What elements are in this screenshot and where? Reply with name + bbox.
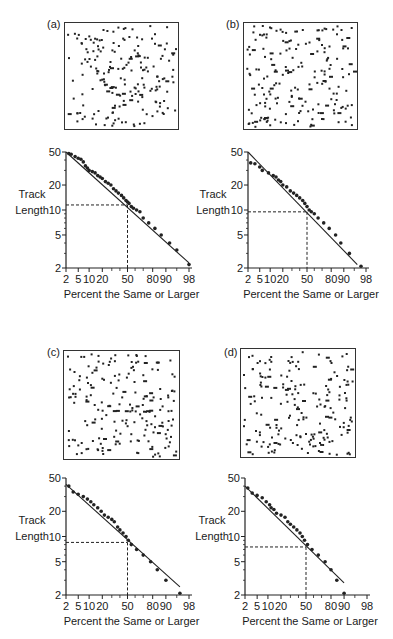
data-point — [342, 591, 346, 595]
chart-c: 2510205025102050809098TrackLengthPercent… — [15, 472, 200, 627]
y-tick-label: 2 — [234, 589, 240, 601]
data-point — [255, 494, 259, 498]
data-point — [317, 553, 321, 557]
x-tick-label: 20 — [277, 273, 289, 285]
data-point — [127, 202, 131, 206]
x-tick-label: 2 — [63, 273, 69, 285]
data-point — [92, 503, 96, 507]
data-point — [73, 155, 77, 159]
data-point — [141, 553, 145, 557]
data-point — [305, 205, 309, 209]
x-tick-label: 98 — [361, 600, 373, 612]
data-point — [76, 492, 80, 496]
y-tick-label: 10 — [49, 531, 61, 543]
track-length-charts: 2510205025102050809098TrackLengthPercent… — [0, 0, 393, 639]
x-tick-label: 50 — [301, 273, 313, 285]
x-tick-label: 10 — [262, 600, 274, 612]
data-point — [272, 508, 276, 512]
y-tick-label: 5 — [237, 229, 243, 241]
x-tick-label: 50 — [121, 273, 133, 285]
x-tick-label: 80 — [325, 273, 337, 285]
data-point — [264, 500, 268, 504]
data-point — [286, 520, 290, 524]
data-point — [253, 162, 257, 166]
data-point — [164, 579, 168, 583]
x-tick-label: 98 — [183, 600, 195, 612]
data-point — [316, 216, 320, 220]
chart-a: 2510205025102050809098TrackLengthPercent… — [15, 146, 200, 300]
x-tick-label: 90 — [160, 600, 172, 612]
data-point — [187, 263, 191, 267]
x-tick-label: 5 — [254, 600, 260, 612]
data-point — [86, 497, 90, 501]
x-tick-label: 98 — [183, 273, 195, 285]
y-tick-label: 20 — [49, 505, 61, 517]
data-point — [275, 511, 279, 515]
x-tick-label: 50 — [121, 600, 133, 612]
fit-line — [248, 152, 357, 265]
data-point — [159, 233, 163, 237]
data-point — [301, 199, 305, 203]
y-axis-title: Length — [15, 204, 49, 216]
x-tick-label: 98 — [360, 273, 372, 285]
y-tick-label: 50 — [228, 472, 240, 484]
y-tick-label: 20 — [231, 179, 243, 191]
data-point — [127, 539, 131, 543]
data-point — [359, 264, 363, 268]
data-point — [289, 523, 293, 527]
y-axis-title: Length — [195, 530, 229, 542]
y-tick-label: 50 — [49, 472, 61, 484]
x-tick-label: 50 — [300, 600, 312, 612]
data-point — [178, 591, 182, 595]
x-tick-label: 20 — [96, 600, 108, 612]
x-tick-label: 2 — [63, 600, 69, 612]
data-point — [135, 208, 139, 212]
x-tick-label: 5 — [75, 600, 81, 612]
data-point — [79, 157, 83, 161]
y-tick-label: 50 — [49, 146, 61, 158]
data-point — [334, 233, 338, 237]
data-point — [295, 528, 299, 532]
data-point — [130, 543, 134, 547]
y-tick-label: 50 — [231, 146, 243, 158]
data-point — [103, 513, 107, 517]
data-point — [67, 484, 71, 488]
data-point — [249, 161, 253, 165]
y-tick-label: 10 — [228, 531, 240, 543]
data-point — [147, 221, 151, 225]
chart-d: 2510205025102050809098TrackLengthPercent… — [195, 472, 378, 627]
x-tick-label: 90 — [160, 273, 172, 285]
data-point — [283, 515, 287, 519]
data-point — [82, 495, 86, 499]
x-tick-label: 2 — [245, 273, 251, 285]
data-point — [124, 535, 128, 539]
data-point — [99, 510, 103, 514]
data-point — [153, 227, 157, 231]
x-tick-label: 20 — [96, 273, 108, 285]
data-point — [246, 486, 250, 490]
data-point — [268, 503, 272, 507]
data-point — [141, 216, 145, 220]
x-axis-title: Percent the Same or Larger — [64, 288, 200, 300]
y-tick-label: 2 — [237, 262, 243, 274]
x-tick-label: 5 — [257, 273, 263, 285]
data-point — [329, 568, 333, 572]
data-point — [132, 206, 136, 210]
x-tick-label: 20 — [275, 600, 287, 612]
y-tick-label: 2 — [55, 589, 61, 601]
data-point — [323, 560, 327, 564]
data-point — [117, 191, 121, 195]
data-point — [138, 210, 142, 214]
data-point — [267, 171, 271, 175]
data-point — [121, 531, 125, 535]
x-axis-title: Percent the Same or Larger — [242, 615, 378, 627]
chart-b: 2510205025102050809098TrackLengthPercent… — [196, 146, 379, 300]
data-point — [295, 194, 299, 198]
data-point — [168, 241, 172, 245]
data-point — [89, 500, 93, 504]
data-point — [71, 490, 75, 494]
data-point — [322, 221, 326, 225]
data-point — [87, 169, 91, 173]
fit-line — [66, 484, 180, 587]
data-point — [101, 177, 105, 181]
